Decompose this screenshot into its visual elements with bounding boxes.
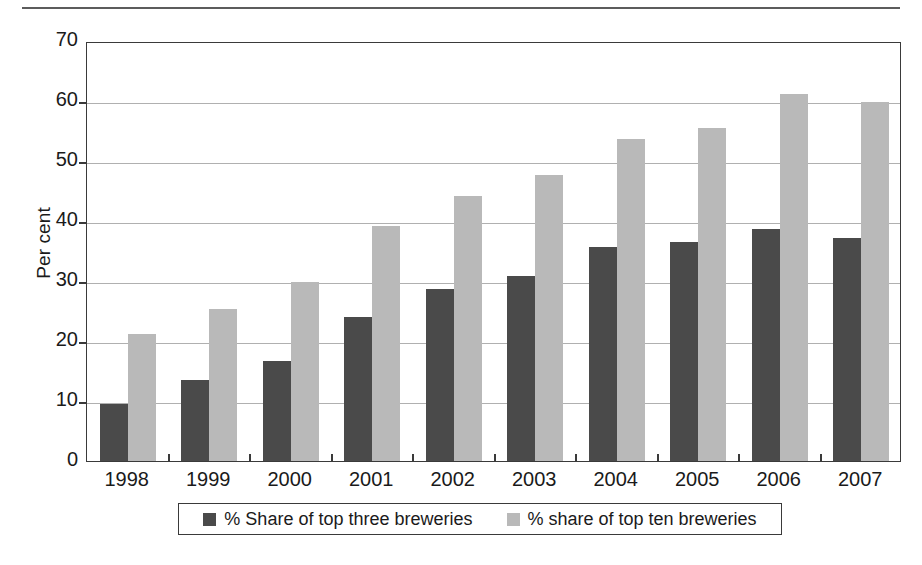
- y-axis-tick-label: 0: [30, 448, 78, 471]
- x-axis-tick-mark: [657, 454, 659, 461]
- x-axis-tick-mark: [168, 454, 170, 461]
- y-axis-tick-label: 20: [30, 328, 78, 351]
- x-axis-tick-label: 2006: [738, 468, 820, 491]
- legend-item-top-three: % Share of top three breweries: [203, 509, 472, 530]
- y-axis-tick-mark: [79, 402, 86, 404]
- bar-2004-series1: [617, 139, 645, 461]
- bar-2007-series0: [833, 238, 861, 461]
- top-divider-rule: [22, 7, 900, 9]
- bar-2000-series1: [291, 282, 319, 461]
- x-axis-tick-label: 2002: [412, 468, 494, 491]
- x-axis-tick-label: 2001: [331, 468, 413, 491]
- x-axis-tick-mark: [331, 454, 333, 461]
- bar-1999-series0: [181, 380, 209, 461]
- light-square-icon: [507, 513, 520, 526]
- bar-2006-series0: [752, 229, 780, 461]
- x-axis-tick-mark: [738, 454, 740, 461]
- bar-2003-series1: [535, 175, 563, 461]
- bar-2005-series1: [698, 128, 726, 461]
- bars-layer: [87, 43, 900, 461]
- plot-area: [86, 42, 901, 462]
- x-axis-tick-label: 1998: [86, 468, 168, 491]
- bar-2004-series0: [589, 247, 617, 461]
- x-axis-tick-label: 1999: [168, 468, 250, 491]
- bar-2002-series1: [454, 196, 482, 461]
- bar-1998-series0: [100, 404, 128, 461]
- bar-2001-series1: [372, 226, 400, 461]
- bar-2005-series0: [670, 242, 698, 461]
- legend-label-top-three: % Share of top three breweries: [224, 509, 472, 530]
- x-axis-tick-label: 2000: [249, 468, 331, 491]
- bar-2003-series0: [507, 276, 535, 461]
- y-axis-tick-label: 30: [30, 268, 78, 291]
- chart-figure: Per cent 010203040506070 199819992000200…: [0, 0, 922, 565]
- legend-item-top-ten: % share of top ten breweries: [507, 509, 757, 530]
- y-axis-tick-mark: [79, 102, 86, 104]
- chart-legend: % Share of top three breweries % share o…: [178, 503, 782, 535]
- bar-2002-series0: [426, 289, 454, 461]
- x-axis-tick-mark: [494, 454, 496, 461]
- x-axis-tick-label: 2004: [575, 468, 657, 491]
- x-axis-tick-mark: [820, 454, 822, 461]
- y-axis-tick-label: 10: [30, 388, 78, 411]
- bar-1998-series1: [128, 334, 156, 461]
- bar-2006-series1: [780, 94, 808, 461]
- y-axis-tick-label: 70: [30, 28, 78, 51]
- legend-label-top-ten: % share of top ten breweries: [528, 509, 757, 530]
- bar-2001-series0: [344, 317, 372, 461]
- y-axis-tick-mark: [79, 342, 86, 344]
- y-axis-tick-mark: [79, 222, 86, 224]
- x-axis-tick-label: 2007: [820, 468, 902, 491]
- y-axis-tick-label: 50: [30, 148, 78, 171]
- y-axis-tick-mark: [79, 162, 86, 164]
- y-axis-tick-label: 40: [30, 208, 78, 231]
- bar-2000-series0: [263, 361, 291, 461]
- x-axis-tick-label: 2005: [657, 468, 739, 491]
- x-axis-tick-label: 2003: [494, 468, 576, 491]
- y-axis-tick-mark: [79, 282, 86, 284]
- x-axis-tick-mark: [575, 454, 577, 461]
- y-axis-tick-label: 60: [30, 88, 78, 111]
- x-axis-tick-mark: [249, 454, 251, 461]
- bar-2007-series1: [861, 102, 889, 461]
- dark-square-icon: [203, 513, 216, 526]
- x-axis-tick-mark: [412, 454, 414, 461]
- bar-1999-series1: [209, 309, 237, 461]
